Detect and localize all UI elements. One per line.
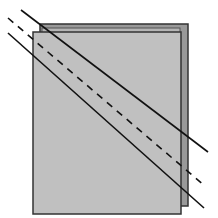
front-square — [33, 32, 181, 214]
diagram-canvas — [0, 0, 218, 218]
